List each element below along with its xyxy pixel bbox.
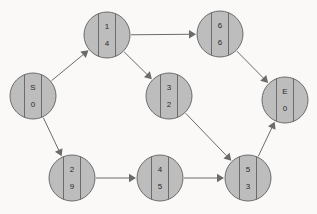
edge-arrowhead (189, 30, 196, 38)
edge-1-to-6 (131, 30, 196, 38)
nodes-layer: S0146632E0294553 (10, 11, 308, 201)
node-2[interactable]: 29 (49, 155, 95, 201)
edge-4-to-5 (184, 174, 224, 182)
edge-S-to-1 (52, 50, 89, 80)
node-circle[interactable] (84, 12, 130, 58)
edge-6-to-E (237, 51, 268, 83)
edge-line (131, 34, 189, 35)
node-label: E (282, 87, 287, 96)
edge-arrowhead (129, 174, 136, 182)
node-circle[interactable] (146, 73, 192, 119)
edge-arrowhead (217, 174, 224, 182)
node-circle[interactable] (262, 77, 308, 123)
edge-S-to-2 (43, 118, 62, 157)
network-diagram-svg: S0146632E0294553 (0, 0, 317, 214)
edge-arrowhead (80, 50, 88, 58)
edge-line (186, 113, 227, 155)
node-value: 2 (167, 100, 172, 109)
node-value: 0 (283, 104, 288, 113)
node-label: 1 (105, 22, 110, 31)
node-label: 3 (167, 83, 172, 92)
edge-line (258, 128, 271, 156)
node-E[interactable]: E0 (262, 77, 308, 123)
edge-5-to-E (258, 122, 275, 157)
edge-line (124, 52, 147, 74)
edge-1-to-3 (124, 52, 152, 79)
edge-line (52, 55, 84, 81)
node-6[interactable]: 66 (197, 11, 243, 57)
network-diagram-canvas: S0146632E0294553 (0, 0, 317, 214)
node-3[interactable]: 32 (146, 73, 192, 119)
node-circle[interactable] (225, 155, 271, 201)
node-value: 5 (158, 182, 163, 191)
node-value: 6 (218, 38, 223, 47)
node-label: 4 (158, 165, 163, 174)
node-circle[interactable] (197, 11, 243, 57)
edge-2-to-4 (96, 174, 136, 182)
node-label: 5 (246, 165, 251, 174)
node-label: 6 (218, 21, 223, 30)
node-label: S (30, 83, 35, 92)
node-5[interactable]: 53 (225, 155, 271, 201)
node-4[interactable]: 45 (137, 155, 183, 201)
edge-line (237, 51, 263, 78)
node-circle[interactable] (49, 155, 95, 201)
node-value: 9 (70, 182, 75, 191)
edge-line (43, 118, 58, 150)
node-value: 0 (31, 100, 36, 109)
node-circle[interactable] (137, 155, 183, 201)
node-value: 3 (246, 182, 251, 191)
node-S[interactable]: S0 (10, 73, 56, 119)
node-label: 2 (70, 165, 75, 174)
node-circle[interactable] (10, 73, 56, 119)
edge-3-to-5 (186, 113, 232, 160)
node-1[interactable]: 14 (84, 12, 130, 58)
node-value: 4 (105, 39, 110, 48)
